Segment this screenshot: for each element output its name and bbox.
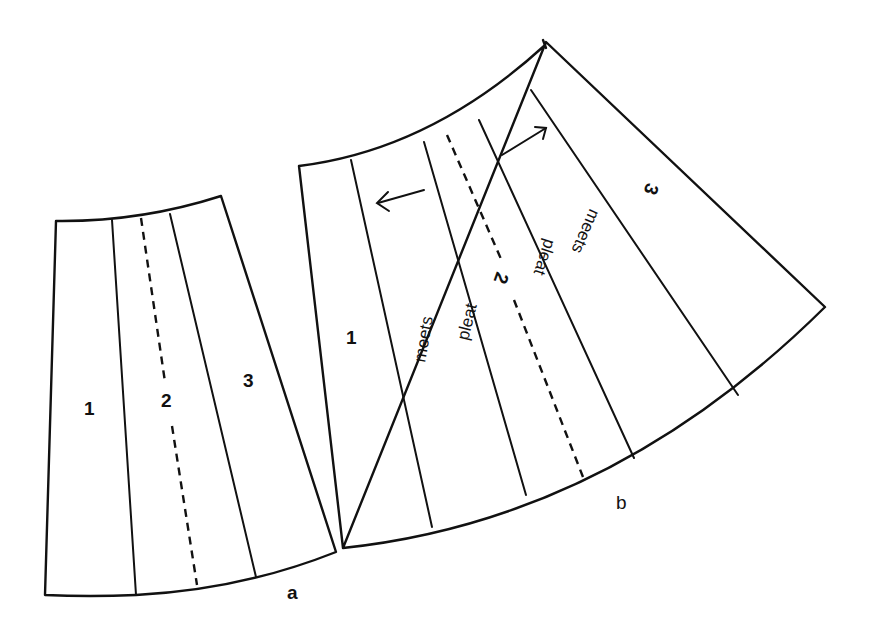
arrow-right-icon (502, 127, 546, 155)
skirt-pattern-diagram: 1 2 3 a 1 2 3 meets pleat pleat m (0, 0, 871, 640)
figure-a-panel-2-label: 2 (161, 390, 172, 411)
figure-a: 1 2 3 a (45, 196, 336, 603)
figure-a-caption: a (287, 582, 298, 603)
figure-b: 1 2 3 meets pleat pleat meets b (299, 40, 825, 548)
figure-b-outline (299, 42, 825, 548)
figure-b-panel-3-label: 3 (640, 181, 663, 198)
figure-b-pleat-label-left: pleat (453, 301, 480, 342)
figure-a-seam-line-1 (112, 220, 136, 595)
figure-b-meets-label-left: meets (410, 315, 437, 364)
figure-b-fold-line-upper (447, 135, 501, 259)
figure-a-outline (45, 196, 336, 596)
figure-b-panel-2-label: 2 (490, 270, 513, 287)
figure-b-panel-1-label: 1 (346, 327, 357, 348)
figure-b-pleat-label-right: pleat (530, 237, 560, 278)
figure-a-seam-line-2 (170, 214, 256, 577)
figure-a-fold-line-upper (141, 218, 165, 382)
figure-b-meets-label-right: meets (568, 206, 604, 256)
figure-a-panel-1-label: 1 (84, 398, 95, 419)
figure-a-fold-line-lower (172, 426, 197, 585)
figure-b-caption: b (616, 492, 627, 513)
figure-b-meets-line-right (531, 90, 738, 395)
figure-a-panel-3-label: 3 (243, 370, 254, 391)
arrow-left-icon (377, 190, 424, 211)
